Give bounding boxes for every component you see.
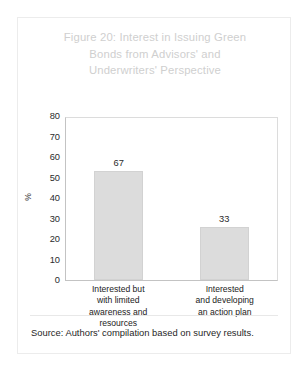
y-tick-label-60: 60 — [34, 153, 60, 162]
bar-value-label: 67 — [114, 158, 124, 168]
x-category-label: Interested but with limited awareness an… — [65, 284, 172, 330]
bar-series: 67 33 — [66, 118, 277, 280]
y-axis-label: % — [23, 193, 33, 201]
y-tick-label-20: 20 — [34, 235, 60, 244]
x-axis-category-labels: Interested but with limited awareness an… — [65, 284, 278, 330]
bar-slot: 33 — [172, 118, 278, 280]
figure-title: Figure 20: Interest in Issuing Green Bon… — [32, 29, 278, 79]
source-divider — [30, 315, 278, 316]
bar-value-label: 33 — [219, 214, 229, 224]
y-tick-label-40: 40 — [34, 194, 60, 203]
y-tick-label-30: 30 — [34, 215, 60, 224]
source-note: Source: Authors' compilation based on su… — [31, 326, 281, 339]
bar-slot: 67 — [66, 118, 172, 280]
y-tick-label-80: 80 — [34, 112, 60, 121]
bar[interactable]: 33 — [200, 227, 249, 280]
bar-chart: % 80 70 60 50 40 30 20 10 0 67 — [18, 96, 290, 311]
y-tick-label-0: 0 — [34, 276, 60, 285]
bar[interactable]: 67 — [94, 171, 143, 280]
y-axis-ticks: 80 70 60 50 40 30 20 10 0 — [34, 96, 60, 274]
y-tick-label-50: 50 — [34, 174, 60, 183]
y-tick-label-70: 70 — [34, 133, 60, 142]
plot-area: 67 33 — [65, 117, 278, 281]
y-tick-label-10: 10 — [34, 256, 60, 265]
x-category-label: Interested and developing an action plan — [172, 284, 279, 330]
figure-card: Figure 20: Interest in Issuing Green Bon… — [17, 17, 291, 354]
